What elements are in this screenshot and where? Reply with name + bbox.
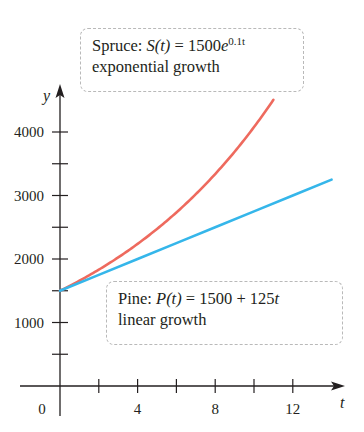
y-tick-label: 1000 xyxy=(14,315,44,331)
spruce-formula: Spruce: S(t) = 1500e0.1t xyxy=(92,35,293,56)
y-tick-label: 3000 xyxy=(14,188,44,204)
pine-description: linear growth xyxy=(118,309,332,330)
spruce-description: exponential growth xyxy=(92,56,293,77)
y-tick-label: 2000 xyxy=(14,251,44,267)
pine-label-box: Pine: P(t) = 1500 + 125t linear growth xyxy=(106,281,343,345)
x-tick-label: 4 xyxy=(134,401,142,417)
pine-formula: Pine: P(t) = 1500 + 125t xyxy=(118,288,332,309)
x-tick-label: 8 xyxy=(211,401,219,417)
y-axis-name: y xyxy=(41,87,51,105)
x-axis-name: t xyxy=(340,394,345,411)
pine-line xyxy=(60,180,332,291)
series-lines xyxy=(60,100,332,291)
origin-label: 0 xyxy=(38,401,46,417)
axes: 481201000200030004000ty xyxy=(14,84,345,417)
spruce-line xyxy=(60,100,273,291)
spruce-label-box: Spruce: S(t) = 1500e0.1t exponential gro… xyxy=(80,28,304,92)
x-tick-label: 12 xyxy=(285,401,300,417)
y-tick-label: 4000 xyxy=(14,124,44,140)
